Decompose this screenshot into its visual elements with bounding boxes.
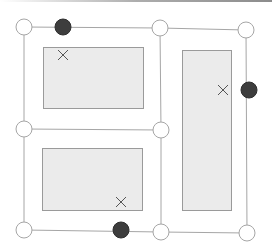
filled-node-f-right xyxy=(241,82,257,98)
edge-n-bottom-left-n-bottom-mid xyxy=(24,230,161,232)
open-node-n-mid-center xyxy=(153,122,169,138)
edge-n-top-mid-n-top-right xyxy=(160,28,246,30)
open-node-n-bottom-left xyxy=(16,222,32,238)
region-bottom-left xyxy=(43,149,143,211)
edge-n-top-mid-n-mid-center xyxy=(160,28,161,130)
open-node-n-bottom-mid xyxy=(153,224,169,240)
open-node-n-bottom-right xyxy=(239,225,255,241)
filled-node-f-top xyxy=(55,19,71,35)
edge-n-top-left-n-top-mid xyxy=(24,27,160,28)
open-node-n-mid-left xyxy=(16,121,32,137)
open-node-n-top-mid xyxy=(152,20,168,36)
edge-n-bottom-mid-n-bottom-right xyxy=(161,232,247,233)
edge-n-top-right-n-bottom-right xyxy=(246,30,247,233)
open-node-n-top-left xyxy=(16,19,32,35)
edge-n-mid-left-n-mid-center xyxy=(24,129,161,130)
top-edge-line xyxy=(0,0,272,2)
node-grid-diagram xyxy=(0,0,272,251)
open-node-n-top-right xyxy=(238,22,254,38)
filled-node-f-bottom xyxy=(113,222,129,238)
region-top-left xyxy=(44,48,144,109)
region-right xyxy=(183,51,232,211)
